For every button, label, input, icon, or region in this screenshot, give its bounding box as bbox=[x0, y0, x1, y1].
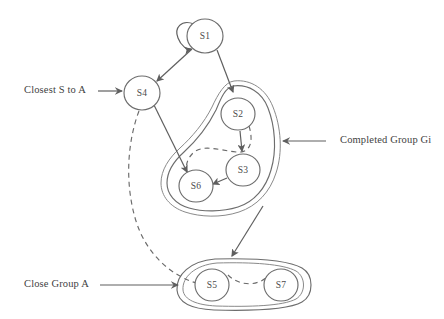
annotation-completed-group-gi-label: Completed Group Gi bbox=[340, 134, 431, 145]
node-s6[interactable]: S6 bbox=[179, 170, 213, 202]
node-s4-label: S4 bbox=[137, 88, 147, 98]
edge-s5-to-s7-dashed bbox=[228, 275, 266, 284]
node-s2-label: S2 bbox=[233, 109, 243, 119]
node-s7-label: S7 bbox=[276, 280, 286, 290]
node-s3[interactable]: S3 bbox=[226, 154, 260, 186]
diagram-canvas: S1 S4 S2 S3 S6 S5 S7 Closest S to bbox=[0, 0, 444, 319]
group-completed-gi bbox=[161, 81, 280, 216]
group-completed-gi-outline-inner bbox=[161, 81, 280, 216]
edge-group-gi-to-group-a bbox=[232, 206, 263, 256]
annotation-closest-s-to-a-label: Closest S to A bbox=[24, 84, 86, 95]
edge-s1-to-s4 bbox=[157, 49, 192, 81]
node-s6-label: S6 bbox=[191, 181, 201, 191]
edge-s2-to-s3 bbox=[240, 131, 242, 151]
annotation-completed-group-gi: Completed Group Gi bbox=[283, 134, 431, 145]
annotation-close-group-a-label: Close Group A bbox=[24, 278, 89, 289]
node-s2[interactable]: S2 bbox=[221, 98, 255, 130]
node-s1-label: S1 bbox=[200, 31, 210, 41]
node-s5[interactable]: S5 bbox=[195, 269, 229, 301]
state-group-diagram: S1 S4 S2 S3 S6 S5 S7 Closest S to bbox=[0, 0, 444, 319]
edge-s4-to-s6 bbox=[154, 105, 187, 172]
annotation-close-group-a: Close Group A bbox=[24, 278, 178, 289]
node-s5-label: S5 bbox=[207, 280, 217, 290]
node-s7[interactable]: S7 bbox=[264, 269, 298, 301]
node-s4[interactable]: S4 bbox=[124, 76, 160, 110]
node-s1[interactable]: S1 bbox=[187, 19, 223, 53]
edge-s3-to-s6 bbox=[213, 178, 227, 184]
annotation-closest-s-to-a: Closest S to A bbox=[24, 84, 122, 95]
node-s3-label: S3 bbox=[238, 165, 248, 175]
